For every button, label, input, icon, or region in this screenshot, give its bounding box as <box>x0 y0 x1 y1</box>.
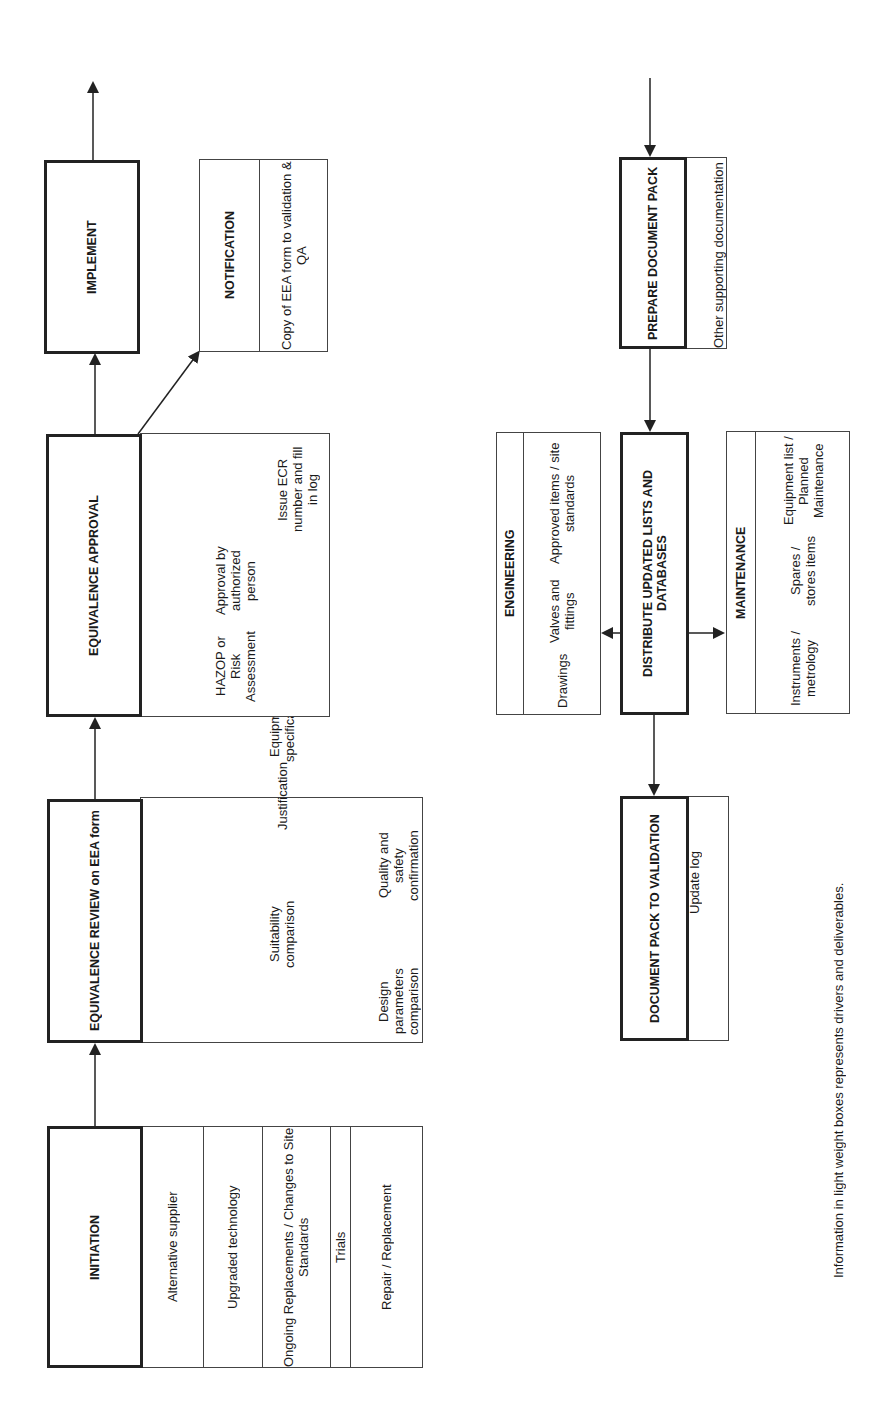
engineering-item: Drawings <box>555 654 570 708</box>
initiation-title: INITIATION <box>47 1126 143 1368</box>
initiation-item: Trials <box>330 1126 350 1368</box>
engineering-item: Valves and fittings <box>547 574 577 648</box>
approval-items: HAZOP or Risk Assessment Approval by aut… <box>150 433 320 717</box>
maintenance-item: Instruments / metrology <box>788 624 818 714</box>
notification-title: NOTIFICATION <box>200 159 259 352</box>
maintenance-item: Equipment list / Planned Maintenance <box>781 431 826 531</box>
review-items: Design parameters comparison Suitability… <box>143 797 421 1043</box>
review-item: Quality and safety confirmation <box>376 830 421 901</box>
engineering-title: ENGINEERING <box>497 432 523 715</box>
initiation-item: Upgraded technology <box>203 1126 262 1368</box>
engineering-items: Drawings Valves and fittings Approved it… <box>524 432 600 715</box>
approval-item: HAZOP or Risk Assessment <box>213 625 258 707</box>
approval-title: EQUIVALENCE APPROVAL <box>46 434 142 717</box>
validation-item: Update log <box>687 796 728 1041</box>
prepare-item: Other supporting documentation <box>686 157 726 349</box>
initiation-item: Alternative supplier <box>142 1126 203 1368</box>
distribute-title: DISTRIBUTE UPDATED LISTS AND DATABASES <box>620 432 689 715</box>
initiation-item: Ongoing Replacements / Changes to Site S… <box>262 1126 330 1368</box>
engineering-item: Approved items / site standards <box>547 439 577 568</box>
review-item: Design parameters comparison <box>376 968 421 1035</box>
initiation-item: Repair / Replacement <box>350 1126 423 1368</box>
notification-item: Copy of EEA form to validation & QA <box>260 159 327 352</box>
review-item: Suitability comparison <box>267 901 297 968</box>
implement-title: IMPLEMENT <box>44 160 140 354</box>
maintenance-item: Spares / stores items <box>788 531 818 612</box>
prepare-title: PREPARE DOCUMENT PACK <box>619 157 687 349</box>
footnote: Information in light weight boxes repres… <box>826 820 850 1340</box>
review-title: EQUIVALENCE REVIEW on EEA form <box>47 799 143 1043</box>
validation-title: DOCUMENT PACK TO VALIDATION <box>620 796 689 1041</box>
review-item: Justification <box>275 762 290 830</box>
approval-item: Approval by authorized person <box>213 537 258 626</box>
maintenance-title: MAINTENANCE <box>727 431 755 714</box>
approval-item: Issue ECR number and fill in log <box>275 443 320 537</box>
maintenance-items: Instruments / metrology Spares / stores … <box>756 431 850 714</box>
